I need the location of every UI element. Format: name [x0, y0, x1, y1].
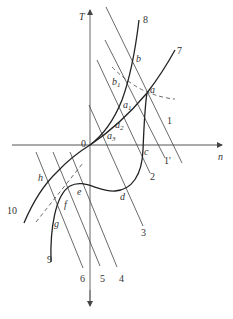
curve-9 — [51, 93, 147, 262]
line-3-label: 3 — [141, 227, 146, 238]
point-b1-label: b1 — [112, 76, 121, 89]
line-6-label: 6 — [80, 273, 85, 284]
t-axis-label: T — [79, 11, 86, 22]
line-2-label: 2 — [150, 171, 155, 182]
point-h-label: h — [38, 172, 43, 183]
curve-10-label: 10 — [7, 205, 17, 216]
dashed-curve-lower — [36, 163, 83, 222]
point-d-label: d — [120, 191, 126, 202]
point-a1-label: a1 — [123, 99, 132, 112]
point-a3-label: a3 — [107, 130, 116, 143]
point-e-label: e — [77, 186, 82, 197]
line-4-label: 4 — [119, 273, 124, 284]
origin-label: 0 — [81, 138, 86, 149]
point-a-label: a — [150, 84, 155, 95]
point-c-label: c — [144, 146, 149, 157]
characteristic-diagram: T n 0 7 8 9 10 1 1' 2 3 4 5 6 a b b1 a1 … — [0, 0, 233, 319]
curve-8-label: 8 — [143, 14, 148, 25]
point-f-label: f — [64, 199, 68, 210]
line-1-label: 1 — [167, 115, 172, 126]
line-5-label: 5 — [100, 273, 105, 284]
point-a2-label: a2 — [115, 119, 124, 132]
point-g-label: g — [54, 218, 59, 229]
n-axis-label: n — [218, 151, 223, 162]
curve-9-label: 9 — [47, 254, 52, 265]
line-1-prime-label: 1' — [164, 155, 171, 166]
curve-7-label: 7 — [177, 45, 182, 56]
point-b-label: b — [136, 53, 141, 64]
